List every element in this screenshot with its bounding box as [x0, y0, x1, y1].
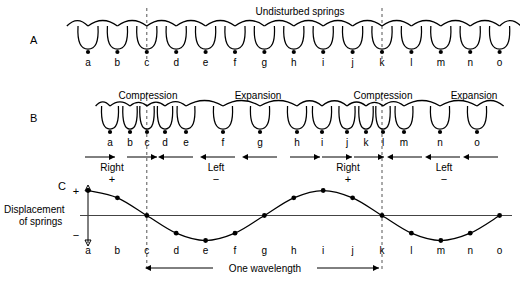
coil-label-a: a	[107, 137, 113, 148]
region-label-3: Expansion	[451, 90, 498, 101]
particle-dot	[345, 130, 349, 134]
coil-label-o: o	[497, 57, 503, 68]
panel-c-label-h: h	[291, 245, 297, 256]
particle-dot	[381, 130, 385, 134]
particle-dot	[221, 130, 225, 134]
coil-label-k: k	[364, 137, 370, 148]
panel-a-heading: Undisturbed springs	[256, 6, 345, 17]
particle-dot	[204, 50, 208, 54]
panel-a-particle-dots	[86, 50, 502, 54]
wave-point-a	[86, 188, 91, 193]
coil-label-m: m	[400, 137, 408, 148]
panel-c-label-n: n	[467, 245, 473, 256]
coil-label-g: g	[257, 137, 263, 148]
panel-a-springs	[67, 21, 520, 50]
panel-c-label-g: g	[262, 245, 268, 256]
y-axis-title-line2: of springs	[19, 216, 62, 227]
panel-b-region-labels: CompressionExpansionCompressionExpansion	[119, 90, 498, 101]
y-axis-plus-sign: +	[73, 185, 79, 197]
particle-dot	[438, 130, 442, 134]
panel-c-label-c: c	[144, 245, 149, 256]
panel-c-label-e: e	[203, 245, 209, 256]
particle-dot	[163, 130, 167, 134]
particle-dot	[145, 130, 149, 134]
particle-dot	[115, 50, 119, 54]
panel-c-label-j: j	[350, 245, 353, 256]
particle-dot	[351, 50, 355, 54]
particle-dot	[364, 130, 368, 134]
wave-point-j	[350, 195, 355, 200]
particle-dot	[292, 50, 296, 54]
particle-dot	[295, 130, 299, 134]
particle-dot	[402, 130, 406, 134]
panel-b-letter: B	[30, 112, 37, 124]
wavelength-label: One wavelength	[229, 263, 301, 274]
panel-c-label-d: d	[173, 245, 179, 256]
coil-label-n: n	[467, 57, 473, 68]
particle-dot	[409, 50, 413, 54]
particle-dot	[108, 130, 112, 134]
direction-sign-3: −	[441, 173, 447, 185]
panel-b-particle-dots	[108, 130, 479, 134]
particle-dot	[380, 50, 384, 54]
particle-dot	[439, 50, 443, 54]
coil-label-a: a	[85, 57, 91, 68]
wave-point-m	[438, 238, 443, 243]
coil-label-g: g	[262, 57, 268, 68]
particle-dot	[174, 50, 178, 54]
direction-label-right-0: Right	[100, 162, 124, 173]
wave-point-l	[409, 231, 414, 236]
particle-dot	[475, 130, 479, 134]
coil-label-b: b	[115, 57, 121, 68]
wave-point-c	[144, 213, 149, 218]
y-axis-title-line1: Displacement	[4, 204, 65, 215]
wave-point-b	[115, 195, 120, 200]
wave-point-o	[497, 213, 502, 218]
coil-label-h: h	[291, 57, 297, 68]
wave-point-h	[291, 195, 296, 200]
panel-a-labels: abcdefghijklmno	[85, 57, 503, 68]
wave-point-f	[233, 231, 238, 236]
wave-point-i	[321, 188, 326, 193]
direction-label-left-3: Left	[436, 162, 453, 173]
coil-label-k: k	[380, 57, 386, 68]
particle-dot	[320, 130, 324, 134]
direction-label-left-1: Left	[208, 162, 225, 173]
panel-b-springs	[96, 101, 504, 130]
particle-dot	[145, 50, 149, 54]
region-label-1: Expansion	[235, 90, 282, 101]
wave-point-n	[468, 231, 473, 236]
coil-label-m: m	[437, 57, 445, 68]
direction-sign-2: +	[345, 173, 351, 185]
coil-label-c: c	[144, 57, 149, 68]
particle-dot	[468, 50, 472, 54]
coil-label-i: i	[321, 137, 323, 148]
direction-sign-1: −	[213, 173, 219, 185]
coil-label-n: n	[437, 137, 443, 148]
panel-c-letter: C	[58, 180, 66, 192]
particle-dot	[128, 130, 132, 134]
particle-dot	[258, 130, 262, 134]
coil-label-l: l	[410, 57, 412, 68]
wave-point-d	[174, 231, 179, 236]
particle-dot	[86, 50, 90, 54]
particle-dot	[498, 50, 502, 54]
coil-label-d: d	[173, 57, 179, 68]
panel-c-label-b: b	[115, 245, 121, 256]
panel-c-label-l: l	[410, 245, 412, 256]
wave-point-e	[203, 238, 208, 243]
coil-label-l: l	[382, 137, 384, 148]
coil-label-h: h	[294, 137, 300, 148]
direction-sign-0: +	[109, 173, 115, 185]
panel-c-label-m: m	[437, 245, 445, 256]
wave-point-k	[380, 213, 385, 218]
longitudinal-wave-diagram: A Undisturbed springs abcdefghijklmno B …	[0, 0, 520, 283]
panel-c-label-a: a	[85, 245, 91, 256]
coil-label-j: j	[345, 137, 348, 148]
panel-a-letter: A	[30, 34, 38, 46]
coil-label-f: f	[234, 57, 237, 68]
coil-label-c: c	[145, 137, 150, 148]
region-label-0: Compression	[119, 90, 178, 101]
coil-label-e: e	[203, 57, 209, 68]
y-axis-minus-sign: −	[73, 229, 79, 241]
